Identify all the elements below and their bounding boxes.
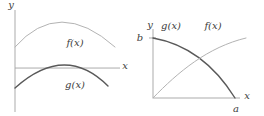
left-y-axis-label: y (8, 0, 14, 10)
right-b-tick-label: b (137, 33, 143, 43)
right-f-curve (153, 38, 246, 98)
right-g-curve (153, 38, 235, 98)
right-plot (149, 29, 246, 98)
left-f-curve-label: f(x) (66, 38, 83, 48)
left-x-axis-label: x (122, 61, 128, 71)
right-x-axis-label: x (244, 91, 250, 101)
function-graphs-figure: y x f(x) g(x) y g(x) f(x) b x a (0, 0, 264, 116)
right-f-curve-label: f(x) (204, 21, 221, 31)
left-g-curve-label: g(x) (65, 80, 85, 90)
figure-canvas (0, 0, 264, 116)
right-g-curve-label: g(x) (161, 21, 181, 31)
left-plot (15, 10, 120, 112)
left-f-curve (15, 22, 115, 47)
right-a-tick-label: a (233, 104, 239, 114)
right-y-axis-label: y (147, 20, 153, 30)
